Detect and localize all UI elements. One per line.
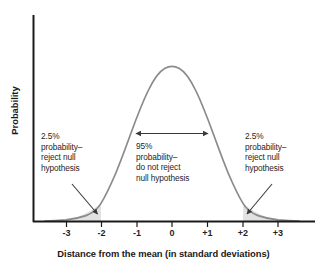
y-axis-title: Probability xyxy=(9,71,20,151)
x-tick-label-plus-3: +3 xyxy=(266,228,290,238)
x-axis-ticks xyxy=(67,222,279,227)
center-annotation: 95% probability– do not reject null hypo… xyxy=(136,141,216,183)
left-tail-annotation: 2.5% probability– reject null hypothesis xyxy=(41,131,103,173)
normal-distribution-figure: 2.5% probability– reject null hypothesis… xyxy=(0,0,327,266)
left-annotation-leader-arrow xyxy=(72,184,98,214)
x-tick-label-zero: 0 xyxy=(160,228,184,238)
x-tick-label-plus-1: +1 xyxy=(196,228,220,238)
x-tick-label-minus-1: -1 xyxy=(125,228,149,238)
x-tick-label-plus-2: +2 xyxy=(231,228,255,238)
x-tick-label-minus-2: -2 xyxy=(90,228,114,238)
right-annotation-leader-arrow xyxy=(247,184,272,214)
x-tick-label-minus-3: -3 xyxy=(55,228,79,238)
right-tail-annotation: 2.5% probability– reject null hypothesis xyxy=(245,131,313,173)
x-axis-title: Distance from the mean (in standard devi… xyxy=(0,248,327,259)
